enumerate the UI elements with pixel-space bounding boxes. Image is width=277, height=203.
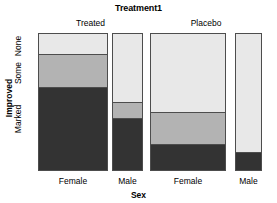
bar-segment-placebo-male-none[interactable] [236,33,261,152]
bar-segment-placebo-female-none[interactable] [151,33,225,112]
x-tick-3-male: Male [230,176,267,186]
x-tick-2-female: Female [150,176,226,186]
bar-placebo-male[interactable] [235,33,262,171]
bar-segment-treated-female-some[interactable] [39,54,107,87]
bar-segment-treated-male-none[interactable] [113,33,142,102]
x-tick-0-female: Female [38,176,108,186]
bar-segment-treated-female-none[interactable] [39,33,107,54]
strip-label-treated: Treated [38,18,143,28]
y-tick-label: None [8,36,28,56]
page-title: Treatment1 [0,3,277,13]
y-axis-title: Improved [4,68,14,128]
x-tick-1-male: Male [108,176,147,186]
x-axis-title: Sex [0,190,277,200]
strip-label-placebo: Placebo [150,18,262,28]
y-tick-none: None [0,36,36,56]
bar-segment-treated-female-marked[interactable] [39,87,107,171]
bar-treated-male[interactable] [112,33,143,171]
chart-canvas: Treatment1 TreatedPlacebo NoneSomeMarked… [0,0,277,203]
bar-treated-female[interactable] [38,33,108,171]
bar-segment-placebo-female-marked[interactable] [151,144,225,171]
bar-placebo-female[interactable] [150,33,226,171]
bar-segment-treated-male-marked[interactable] [113,118,142,171]
bar-segment-placebo-male-marked[interactable] [236,152,261,171]
bar-segment-placebo-female-some[interactable] [151,112,225,144]
bar-segment-treated-male-some[interactable] [113,102,142,118]
